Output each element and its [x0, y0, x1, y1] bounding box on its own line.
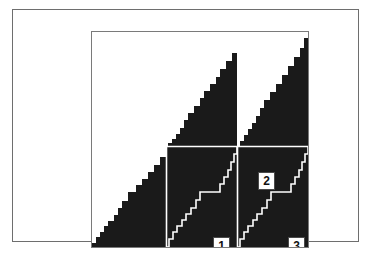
staircase-fill-group	[92, 38, 308, 247]
staircase-fill-area	[92, 38, 308, 247]
figure-root: 1 2 3 4 5 6	[0, 0, 372, 255]
plot-frame-border: 1 2 3 4 5 6	[91, 31, 309, 248]
region-label-1: 1	[213, 237, 230, 248]
region-label-2: 2	[258, 172, 275, 190]
staircase-chart	[92, 32, 308, 247]
region-label-3: 3	[288, 237, 305, 248]
outer-frame-border: 1 2 3 4 5 6	[12, 9, 359, 242]
